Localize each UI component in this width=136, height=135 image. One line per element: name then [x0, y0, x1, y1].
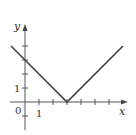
x-axis-label: x — [119, 105, 126, 118]
chart: y x 0 1 1 — [0, 0, 136, 135]
x-axis-arrow-icon — [121, 100, 128, 105]
origin-label: 0 — [15, 105, 21, 116]
y-tick-label-1: 1 — [14, 83, 20, 94]
x-tick-label-1: 1 — [36, 108, 42, 119]
y-axis-label: y — [13, 20, 21, 33]
y-axis-arrow-icon — [23, 24, 28, 31]
